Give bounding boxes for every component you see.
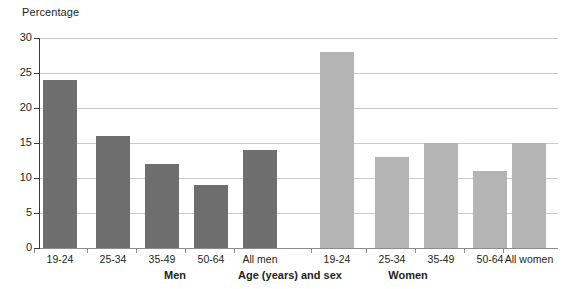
y-axis-tick-mark [34,108,40,109]
y-axis-tick-label: 20 [6,101,32,113]
y-axis-tick-label: 10 [6,171,32,183]
y-axis-tick-mark [34,143,40,144]
bar [375,157,409,248]
bar [194,185,228,248]
x-axis-category-label: 35-49 [149,253,176,265]
y-axis-title: Percentage [22,6,79,18]
y-axis-tick-mark [34,178,40,179]
bar [145,164,179,248]
x-axis-category-label: 25-34 [100,253,127,265]
y-axis-tick-mark [34,248,40,249]
x-axis-category-label: All men [242,253,277,265]
x-axis-category-label: All women [505,253,553,265]
y-axis-tick-label: 15 [6,136,32,148]
gridline [40,108,558,109]
bar [424,143,458,248]
x-axis-category-label: 19-24 [324,253,351,265]
bar [473,171,507,248]
x-axis-category-label: 25-34 [379,253,406,265]
x-axis-category-label: 50-64 [198,253,225,265]
y-axis-tick-mark [34,73,40,74]
y-axis-tick-labels: 302520151050 [0,38,32,249]
y-axis-tick-label: 5 [6,206,32,218]
bar [43,80,77,248]
y-axis-tick-mark [34,38,40,39]
group-label: Age (years) and sex [238,269,342,281]
gridline [40,38,558,39]
gridline [40,73,558,74]
y-axis-tick-mark [34,213,40,214]
x-axis-category-labels: 19-2425-3435-4950-64All men19-2425-3435-… [0,253,564,269]
bar [320,52,354,248]
y-axis-tick-label: 25 [6,66,32,78]
group-label: Women [388,269,428,281]
x-axis-group-labels: MenAge (years) and sexWomen [0,269,564,285]
bar [96,136,130,248]
y-axis-tick-label: 30 [6,31,32,43]
bar [512,143,546,248]
x-axis-category-label: 50-64 [477,253,504,265]
x-axis-category-label: 35-49 [428,253,455,265]
x-axis-category-label: 19-24 [47,253,74,265]
plot-area [40,38,558,248]
bar [243,150,277,248]
bar-chart: Percentage 302520151050 19-2425-3435-495… [0,0,564,289]
group-label: Men [164,269,186,281]
